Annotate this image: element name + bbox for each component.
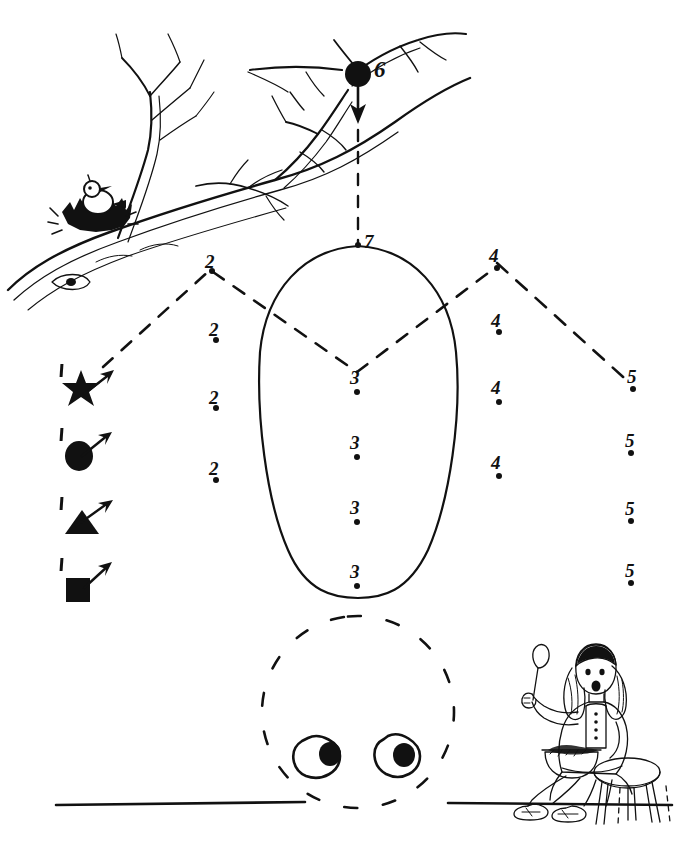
dot-label-three-1: 3: [350, 368, 360, 387]
dashed-path-two-to-three: [213, 272, 357, 372]
dot-label-four-4: 4: [491, 453, 501, 472]
dashed-face-circle: [252, 606, 463, 817]
bird-in-nest-illustration: [48, 175, 138, 234]
dot-label-two-3: 2: [209, 388, 219, 407]
dashed-path-one-to-two: [103, 270, 210, 367]
dot-label-two-4: 2: [209, 459, 219, 478]
start-marker-circle: [62, 432, 124, 482]
dot-label-two-2: 2: [209, 320, 219, 339]
dot-label-five-2: 5: [625, 431, 635, 450]
dot-three-3: [354, 519, 360, 525]
egg-outline: [259, 246, 457, 598]
dot-three-2: [354, 454, 360, 460]
worksheet-page: 7 6 2 2 2 2 3 3 3 3 4 4 4 4 5 5 5 5: [0, 0, 700, 841]
dot-label-five-3: 5: [625, 499, 635, 518]
dashed-path-three-to-four: [357, 267, 496, 372]
ground-line-right: [448, 803, 672, 805]
girl-with-bowl-illustration: [514, 644, 670, 824]
tree-branch-illustration: [8, 33, 470, 310]
face-eyes: [293, 734, 420, 777]
dot-label-three-4: 3: [350, 562, 360, 581]
dot-three-4: [354, 583, 360, 589]
dot-label-five-1: 5: [627, 367, 637, 386]
dot-label-four-3: 4: [491, 378, 501, 397]
dot-label-two-1: 2: [205, 252, 215, 271]
dot-label-three-3: 3: [350, 498, 360, 517]
worksheet-artwork: [0, 0, 700, 841]
node-six-marker: [345, 61, 371, 124]
start-marker-star: [62, 370, 124, 420]
dot-seven: [355, 242, 361, 248]
dot-label-three-2: 3: [350, 433, 360, 452]
dot-label-four-2: 4: [491, 311, 501, 330]
ground-line-left: [56, 802, 305, 805]
dot-four-3: [496, 399, 502, 405]
dot-label-five-4: 5: [625, 561, 635, 580]
start-marker-triangle: [62, 500, 124, 550]
dashed-path-four-to-five: [497, 263, 632, 385]
dot-label-six: 6: [374, 58, 386, 81]
dot-label-four-1: 4: [489, 246, 499, 265]
start-marker-square: [62, 562, 124, 612]
dot-label-seven: 7: [364, 232, 374, 251]
dot-three-1: [354, 389, 360, 395]
dot-four-4: [496, 473, 502, 479]
